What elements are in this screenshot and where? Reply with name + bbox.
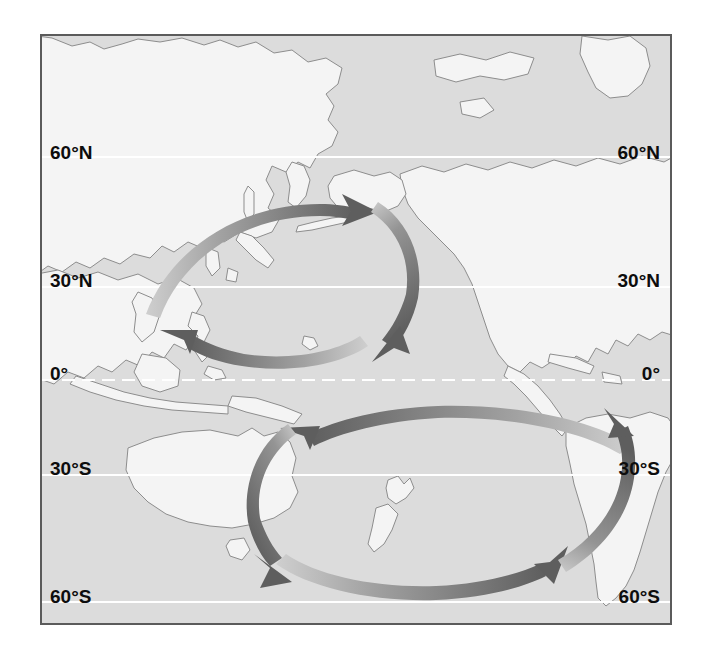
latitude-label-left-30n: 30°N: [50, 271, 92, 290]
ocean-gyre-figure: 60°N 30°N 0° 30°S 60°S 60°N 30°N 0° 30°S…: [0, 0, 705, 652]
latitude-label-right-30s: 30°S: [619, 459, 660, 478]
latitude-label-right-60n: 60°N: [618, 143, 660, 162]
latitude-label-left-60s: 60°S: [50, 587, 91, 606]
latitude-label-left-30s: 30°S: [50, 459, 91, 478]
latitude-label-right-equator: 0°: [642, 364, 660, 383]
latitude-label-right-30n: 30°N: [618, 271, 660, 290]
latitude-label-left-60n: 60°N: [50, 143, 92, 162]
latitude-label-right-60s: 60°S: [619, 587, 660, 606]
map-frame: 60°N 30°N 0° 30°S 60°S 60°N 30°N 0° 30°S…: [40, 34, 672, 625]
map-canvas: [42, 36, 670, 623]
latitude-label-left-equator: 0°: [50, 364, 68, 383]
